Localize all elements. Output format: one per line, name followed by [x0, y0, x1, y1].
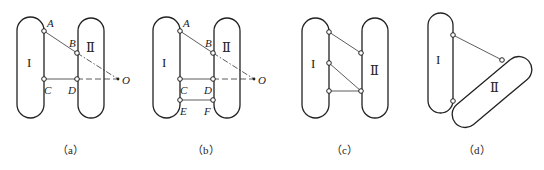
label-D: D	[67, 84, 76, 96]
joint-D	[211, 77, 216, 82]
label-body-I: I	[436, 52, 440, 67]
joint-I-3	[327, 89, 332, 94]
joint-II-1	[500, 58, 505, 63]
label-E: E	[179, 105, 187, 117]
label-body-II: Ⅱ	[86, 40, 95, 55]
caption-a: （a）	[57, 144, 84, 156]
joint-B	[75, 51, 80, 56]
label-body-I: I	[311, 56, 315, 71]
label-B: B	[69, 37, 76, 49]
label-body-II: Ⅱ	[370, 63, 379, 78]
instant-center-O	[253, 78, 256, 81]
label-A: A	[46, 17, 54, 29]
caption-b: （b）	[192, 144, 220, 156]
kinematic-constraint-figure: I Ⅱ A B C D O （a） I Ⅱ A B C D E F O （b）	[0, 0, 544, 170]
label-O: O	[258, 74, 266, 86]
label-C: C	[44, 84, 52, 96]
label-body-I: I	[27, 55, 31, 70]
label-A: A	[182, 17, 190, 29]
joint-E	[178, 98, 183, 103]
body-I	[302, 18, 329, 118]
joint-F	[211, 98, 216, 103]
panel-d: I Ⅱ （d）	[428, 13, 537, 156]
joint-I-II-contact	[451, 99, 456, 104]
instant-center-O	[117, 78, 120, 81]
body-I	[428, 13, 453, 113]
label-C: C	[180, 84, 188, 96]
label-F: F	[203, 105, 211, 117]
link-1	[329, 32, 361, 53]
label-body-I: I	[162, 55, 166, 70]
joint-I-2	[327, 61, 332, 66]
joint-D	[75, 77, 80, 82]
label-body-II: Ⅱ	[490, 80, 499, 95]
label-D: D	[203, 84, 212, 96]
caption-d: （d）	[463, 144, 491, 156]
body-I	[153, 17, 180, 118]
panel-c: I Ⅱ （c）	[302, 18, 388, 156]
link-1	[453, 35, 502, 60]
joint-II-2	[359, 89, 364, 94]
joint-C	[42, 77, 47, 82]
joint-II-1	[359, 51, 364, 56]
panel-b: I Ⅱ A B C D E F O （b）	[153, 17, 266, 156]
joint-B	[211, 51, 216, 56]
label-O: O	[122, 74, 130, 86]
joint-A	[42, 29, 47, 34]
label-B: B	[205, 37, 212, 49]
joint-I-1	[327, 30, 332, 35]
caption-c: （c）	[331, 144, 358, 156]
joint-C	[178, 77, 183, 82]
link-2	[329, 63, 361, 91]
joint-I-1	[451, 33, 456, 38]
joint-A	[178, 29, 183, 34]
panel-a: I Ⅱ A B C D O （a）	[17, 17, 130, 156]
label-body-II: Ⅱ	[222, 40, 231, 55]
